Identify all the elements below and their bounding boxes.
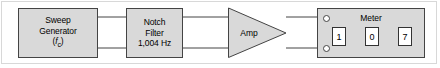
notch-filter-frequency: 1,004 Hz — [138, 38, 171, 49]
meter-digit: 0 — [365, 27, 379, 46]
sweep-generator-frequency-symbol: (fc) — [52, 36, 63, 50]
meter-digit: 1 — [332, 27, 346, 46]
meter-digit: 7 — [398, 27, 412, 46]
notch-filter-line-1: Notch — [144, 17, 166, 28]
block-diagram-figure: Sweep Generator (fc) Notch Filter 1,004 … — [0, 0, 440, 68]
notch-filter-line-2: Filter — [145, 28, 163, 39]
meter-title: Meter — [318, 13, 424, 23]
block-sweep-generator[interactable]: Sweep Generator (fc) — [18, 8, 98, 58]
meter-terminal-bottom-icon — [323, 45, 330, 52]
sweep-generator-line-1: Sweep — [45, 15, 71, 26]
sweep-generator-line-2: Generator — [39, 26, 76, 37]
block-meter[interactable]: Meter 1 0 7 — [317, 8, 425, 58]
block-notch-filter[interactable]: Notch Filter 1,004 Hz — [126, 8, 183, 58]
meter-display: 1 0 7 — [332, 27, 412, 46]
paren-close: ) — [61, 36, 64, 46]
